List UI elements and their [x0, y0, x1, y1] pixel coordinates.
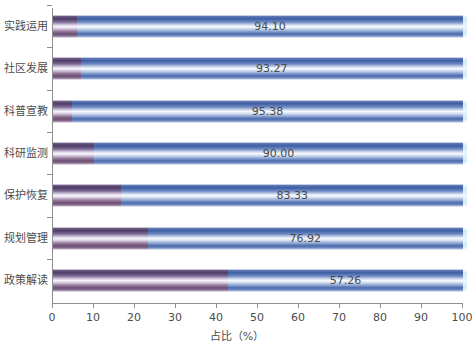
bar-segment-value: [94, 142, 463, 165]
bar-segment-value: [77, 15, 463, 38]
bar-chart: 实践运用94.10社区发展93.27科普宣教95.38科研监测90.00保护恢复…: [0, 0, 474, 346]
x-tick-label: 70: [332, 311, 346, 324]
category-label: 政策解读: [0, 266, 48, 295]
y-tick-mark: [47, 90, 52, 91]
stacked-bar: 95.38: [53, 100, 467, 123]
bar-row: 规划管理76.92: [0, 224, 474, 253]
bar-end-cap: [463, 57, 467, 80]
x-axis-label: 占比（%）: [0, 327, 474, 343]
bar-segment-remainder: [53, 15, 77, 38]
bar-segment-value: [228, 269, 463, 292]
x-tick-mark: [216, 303, 217, 308]
category-label: 规划管理: [0, 224, 48, 253]
stacked-bar: 76.92: [53, 227, 467, 250]
x-tick-mark: [175, 303, 176, 308]
x-tick-mark: [462, 303, 463, 308]
x-tick-label: 90: [414, 311, 428, 324]
x-tick-label: 20: [127, 311, 141, 324]
category-label: 科研监测: [0, 139, 48, 168]
bar-segment-value: [121, 184, 463, 207]
stacked-bar: 90.00: [53, 142, 467, 165]
x-tick-label: 0: [49, 311, 56, 324]
bar-end-cap: [463, 227, 467, 250]
x-tick-mark: [339, 303, 340, 308]
x-tick-mark: [298, 303, 299, 308]
y-tick-mark: [47, 174, 52, 175]
bar-segment-value: [72, 100, 463, 123]
x-tick-label: 10: [86, 311, 100, 324]
x-tick-mark: [52, 303, 53, 308]
y-tick-mark: [47, 217, 52, 218]
x-tick-label: 100: [452, 311, 473, 324]
bar-rows: 实践运用94.10社区发展93.27科普宣教95.38科研监测90.00保护恢复…: [0, 8, 474, 304]
bar-segment-remainder: [53, 227, 148, 250]
bar-row: 科普宣教95.38: [0, 97, 474, 126]
y-tick-mark: [47, 5, 52, 6]
bar-row: 社区发展93.27: [0, 54, 474, 83]
bar-segment-remainder: [53, 269, 228, 292]
x-tick-label: 80: [373, 311, 387, 324]
x-tick-label: 60: [291, 311, 305, 324]
bar-row: 保护恢复83.33: [0, 181, 474, 210]
x-tick-mark: [93, 303, 94, 308]
x-tick-mark: [134, 303, 135, 308]
x-tick-mark: [380, 303, 381, 308]
bar-segment-remainder: [53, 57, 81, 80]
category-label: 实践运用: [0, 12, 48, 41]
y-tick-mark: [47, 259, 52, 260]
x-tick-mark: [421, 303, 422, 308]
bar-end-cap: [463, 100, 467, 123]
bar-row: 科研监测90.00: [0, 139, 474, 168]
category-label: 科普宣教: [0, 97, 48, 126]
bar-end-cap: [463, 269, 467, 292]
stacked-bar: 83.33: [53, 184, 467, 207]
x-tick-label: 30: [168, 311, 182, 324]
x-tick-mark: [257, 303, 258, 308]
bar-row: 实践运用94.10: [0, 12, 474, 41]
x-tick-label: 40: [209, 311, 223, 324]
category-label: 社区发展: [0, 54, 48, 83]
bar-row: 政策解读57.26: [0, 266, 474, 295]
stacked-bar: 57.26: [53, 269, 467, 292]
bar-segment-remainder: [53, 184, 121, 207]
bar-end-cap: [463, 15, 467, 38]
bar-end-cap: [463, 184, 467, 207]
stacked-bar: 94.10: [53, 15, 467, 38]
y-tick-mark: [47, 47, 52, 48]
category-label: 保护恢复: [0, 181, 48, 210]
bar-end-cap: [463, 142, 467, 165]
bar-segment-remainder: [53, 100, 72, 123]
bar-segment-remainder: [53, 142, 94, 165]
bar-segment-value: [148, 227, 463, 250]
y-tick-mark: [47, 132, 52, 133]
x-tick-label: 50: [250, 311, 264, 324]
stacked-bar: 93.27: [53, 57, 467, 80]
bar-segment-value: [81, 57, 463, 80]
